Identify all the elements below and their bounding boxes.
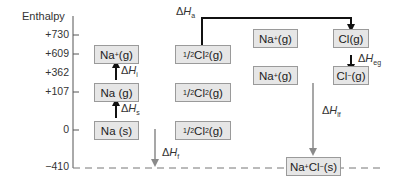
- species-box-half-cl2-g: 1/2 Cl2(g): [175, 45, 231, 64]
- tick-label: +362: [25, 66, 69, 78]
- species-text: Na: [100, 49, 115, 61]
- species-box-na-g: Na (g): [94, 83, 139, 102]
- state: (g): [119, 49, 133, 61]
- species-text: Na (s): [101, 125, 132, 137]
- label-delta-h-f: ΔHf: [162, 146, 179, 160]
- species-box-na-s: Na (s): [94, 121, 139, 140]
- label-delta-h-a: ΔHa: [176, 5, 195, 19]
- y-axis-label: Enthalpy: [22, 10, 65, 22]
- species-box-na-plus-g: Na+ (g): [94, 45, 139, 64]
- tick-label: +609: [25, 47, 69, 59]
- species-text: Na (g): [101, 87, 133, 99]
- tick-label: 0: [25, 123, 69, 135]
- species-box-na-plus-g: Na+ (g): [253, 66, 298, 85]
- tick-label: −410: [25, 160, 69, 172]
- species-box-cl-minus-g: Cl−(g): [333, 66, 369, 85]
- tick-label: +730: [25, 28, 69, 40]
- species-box-cl-g: Cl(g): [333, 29, 369, 48]
- species-box-nacl-s: Na+Cl−(s): [286, 157, 341, 176]
- label-delta-h-lf: ΔHlf: [322, 104, 341, 118]
- label-delta-h-i: ΔHi: [121, 64, 138, 78]
- species-box-half-cl2-g: 1/2 Cl2(g): [175, 121, 231, 140]
- species-box-na-plus-g: Na+ (g): [253, 29, 298, 48]
- label-delta-h-eg: ΔHeg: [358, 52, 381, 66]
- label-delta-h-s: ΔHs: [121, 102, 140, 116]
- tick-label: +107: [25, 85, 69, 97]
- species-box-half-cl2-g: 1/2 Cl2(g): [175, 83, 231, 102]
